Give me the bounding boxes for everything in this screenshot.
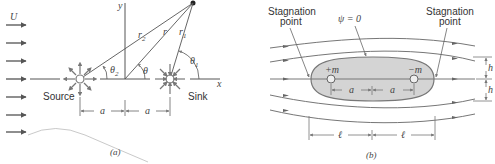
theta-label: θ bbox=[143, 65, 148, 76]
caption-b: (b) bbox=[366, 150, 377, 160]
psi-zero-label: ψ = 0 bbox=[338, 13, 361, 24]
sink-strength-label: −m bbox=[408, 64, 422, 75]
panel-a: U x y r2 r r1 θ2 θ θ1 bbox=[6, 0, 222, 162]
source-icon bbox=[65, 64, 95, 94]
r2-label: r2 bbox=[138, 29, 146, 43]
y-axis-label: y bbox=[117, 0, 123, 11]
diagram-canvas: U x y r2 r r1 θ2 θ θ1 bbox=[0, 0, 495, 164]
radius-lines bbox=[80, 3, 193, 79]
spacing-a-left: a bbox=[100, 105, 105, 116]
inner-spacing-a-right: a bbox=[390, 84, 395, 95]
x-axis-label: x bbox=[216, 78, 222, 89]
stagnation-left-pointer bbox=[290, 28, 309, 77]
sink-label: Sink bbox=[188, 91, 208, 102]
free-stream-label: U bbox=[10, 11, 18, 22]
free-stream-arrows bbox=[6, 25, 26, 132]
stagnation-right-pointer bbox=[436, 28, 447, 77]
theta1-label: θ1 bbox=[190, 55, 198, 69]
theta2-label: θ2 bbox=[110, 64, 119, 78]
r-label: r bbox=[163, 26, 167, 37]
spacing-a-right: a bbox=[145, 105, 150, 116]
half-length-right-label: ℓ bbox=[401, 129, 405, 140]
half-width-bottom-label: h bbox=[488, 84, 493, 95]
sink-marker bbox=[410, 75, 418, 83]
theta2-arc bbox=[103, 66, 107, 79]
source-label: Source bbox=[43, 91, 75, 102]
half-length-left-label: ℓ bbox=[338, 129, 342, 140]
stagnation-right-label: Stagnation point bbox=[426, 6, 477, 27]
caption-a: (a) bbox=[110, 147, 121, 157]
source-marker bbox=[327, 75, 335, 83]
spacing-dimension bbox=[80, 97, 170, 116]
decorative-curve bbox=[28, 129, 148, 163]
sink-icon bbox=[155, 64, 185, 94]
inner-spacing-a-left: a bbox=[349, 84, 354, 95]
half-width-top-label: h bbox=[488, 62, 493, 73]
panel-b: +m −m a a Stagnation point Stagnation po… bbox=[268, 6, 493, 160]
stagnation-left-label: Stagnation point bbox=[268, 6, 319, 27]
source-strength-label: +m bbox=[325, 64, 339, 75]
